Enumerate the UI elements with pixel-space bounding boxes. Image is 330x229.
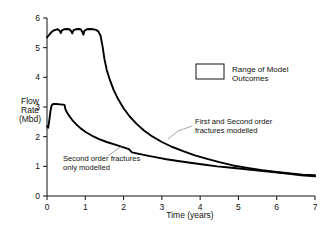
annotation-upper-curve: First and Second order fractures modelle…	[195, 117, 273, 135]
x-tick-label-2: 2	[121, 202, 126, 212]
legend-swatch-range-of-model-outcomes	[196, 64, 224, 79]
x-tick-label-0: 0	[45, 202, 50, 212]
y-axis-title-line-3: (Mbd)	[19, 114, 41, 124]
annotation-lower-line-1: Second order fractures	[63, 154, 140, 163]
x-tick-label-6: 6	[274, 202, 279, 212]
x-axis-ticks	[47, 196, 315, 200]
y-tick-label-2: 2	[35, 132, 40, 142]
x-tick-label-7: 7	[313, 202, 318, 212]
flow-rate-chart: 0123456 01234567 Flow Rate (Mbd) Time (y…	[0, 0, 330, 229]
annotation-leaders	[108, 126, 192, 156]
y-axis-title: Flow Rate (Mbd)	[19, 96, 41, 124]
y-tick-label-6: 6	[35, 13, 40, 23]
y-axis-ticks	[43, 18, 47, 196]
y-tick-label-4: 4	[35, 72, 40, 82]
y-tick-label-1: 1	[35, 161, 40, 171]
x-tick-label-3: 3	[159, 202, 164, 212]
legend-label-line-2: Outcomes	[232, 74, 268, 83]
annotation-lower-line-2: only modelled	[63, 163, 110, 172]
y-tick-label-0: 0	[35, 191, 40, 201]
leader-line-upper-curve	[168, 126, 192, 139]
x-tick-label-5: 5	[236, 202, 241, 212]
legend: Range of Model Outcomes	[196, 64, 289, 83]
annotation-lower-curve: Second order fractures only modelled	[63, 154, 140, 172]
chart-svg: 0123456 01234567 Flow Rate (Mbd) Time (y…	[0, 0, 330, 229]
x-tick-label-1: 1	[83, 202, 88, 212]
legend-label-line-1: Range of Model	[232, 65, 289, 74]
x-axis-title: Time (years)	[166, 210, 214, 220]
annotation-upper-line-1: First and Second order	[195, 117, 273, 126]
y-tick-label-5: 5	[35, 43, 40, 53]
annotation-upper-line-2: fractures modelled	[195, 126, 257, 135]
